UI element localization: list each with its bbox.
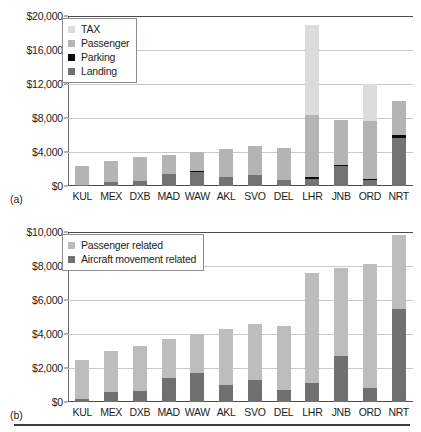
legend-b: Passenger relatedAircraft movement relat… (62, 234, 204, 271)
x-axis-label-mad: MAD (154, 406, 183, 418)
stacked-bar-lhr (305, 25, 319, 186)
x-axis-label-dxb: DXB (126, 406, 155, 418)
bar-segment-tax (363, 84, 377, 121)
y-axis-tick-label: $8,000 (32, 112, 63, 124)
legend-item-passenger: Passenger (68, 36, 129, 50)
bar-segment-passenger (363, 121, 377, 180)
bar-segment-passenger (277, 148, 291, 180)
bar-segment-aircraft-movement-related (219, 385, 233, 402)
legend-a: TAXPassengerParkingLanding (62, 18, 137, 83)
bar-segment-aircraft-movement-related (190, 373, 204, 402)
y-axis-tick-label: $0 (52, 396, 63, 408)
bar-segment-passenger-related (334, 268, 348, 356)
chart-panel-a: $0$4,000$8,000$12,000$16,000$20,000 KULM… (0, 0, 421, 216)
bar-segment-landing (75, 185, 89, 186)
bar-segment-landing (219, 177, 233, 186)
legend-swatch-icon (68, 54, 75, 61)
y-axis-tick-label: $4,000 (32, 328, 63, 340)
bar-slot-lhr (298, 16, 327, 186)
legend-item-tax: TAX (68, 22, 129, 36)
stacked-bar-svo (248, 324, 262, 402)
bar-slot-akl (212, 232, 241, 402)
bar-segment-tax (305, 25, 319, 115)
legend-swatch-icon (68, 242, 75, 249)
bar-slot-jnb (327, 232, 356, 402)
bar-segment-passenger (133, 157, 147, 181)
stacked-bar-ord (363, 84, 377, 186)
bar-segment-landing (162, 174, 176, 186)
stacked-bar-nrt (392, 101, 406, 186)
x-axis-label-mex: MEX (97, 406, 126, 418)
bar-segment-passenger (219, 149, 233, 176)
stacked-bar-waw (190, 152, 204, 186)
legend-item-passenger-related: Passenger related (68, 238, 196, 252)
stacked-bar-mad (162, 339, 176, 402)
bar-segment-aircraft-movement-related (133, 391, 147, 402)
bar-segment-passenger (190, 152, 204, 171)
bar-segment-passenger-related (305, 273, 319, 384)
figure-bottom-rule (14, 424, 410, 426)
bar-segment-passenger-related (190, 334, 204, 373)
bar-segment-passenger-related (248, 324, 262, 380)
bar-slot-nrt (384, 16, 413, 186)
bar-segment-landing (133, 181, 147, 186)
bar-segment-landing (363, 180, 377, 186)
x-axis-label-mad: MAD (154, 190, 183, 202)
stacked-bar-svo (248, 146, 262, 186)
bar-segment-aircraft-movement-related (104, 392, 118, 402)
stacked-bar-mex (104, 161, 118, 186)
y-axis-tick-label: $6,000 (32, 294, 63, 306)
bar-segment-aircraft-movement-related (334, 356, 348, 402)
bar-segment-passenger (104, 161, 118, 182)
x-axis-label-ord: ORD (356, 190, 385, 202)
bar-segment-aircraft-movement-related (75, 399, 89, 402)
bar-segment-passenger-related (104, 351, 118, 392)
y-axis-tick-label: $20,000 (26, 10, 63, 22)
legend-item-parking: Parking (68, 50, 129, 64)
stacked-bar-jnb (334, 120, 348, 186)
bar-segment-aircraft-movement-related (162, 378, 176, 402)
bar-segment-passenger-related (162, 339, 176, 378)
legend-item-aircraft-movement-related: Aircraft movement related (68, 252, 196, 266)
bar-slot-waw (183, 16, 212, 186)
bar-segment-landing (248, 175, 262, 186)
figure-container: $0$4,000$8,000$12,000$16,000$20,000 KULM… (0, 0, 421, 432)
stacked-bar-dxb (133, 157, 147, 186)
bar-segment-aircraft-movement-related (277, 390, 291, 402)
x-axis-label-akl: AKL (212, 190, 241, 202)
y-axis-tick-label: $16,000 (26, 44, 63, 56)
x-axis-labels-b: KULMEXDXBMADWAWAKLSVODELLHRJNBORDNRT (68, 406, 413, 418)
bar-slot-ord (356, 232, 385, 402)
bar-slot-akl (212, 16, 241, 186)
legend-swatch-icon (68, 68, 75, 75)
bar-segment-landing (392, 138, 406, 186)
panel-letter-a: (a) (10, 193, 23, 205)
stacked-bar-nrt (392, 235, 406, 402)
x-axis-labels-a: KULMEXDXBMADWAWAKLSVODELLHRJNBORDNRT (68, 190, 413, 202)
bar-slot-ord (356, 16, 385, 186)
bar-segment-passenger (75, 166, 89, 185)
legend-label: Landing (81, 65, 117, 77)
bar-segment-passenger-related (277, 326, 291, 391)
stacked-bar-mad (162, 155, 176, 186)
bar-segment-passenger-related (392, 235, 406, 308)
x-axis-label-jnb: JNB (327, 406, 356, 418)
bar-segment-aircraft-movement-related (248, 380, 262, 402)
bar-segment-aircraft-movement-related (392, 309, 406, 403)
x-axis-label-mex: MEX (97, 190, 126, 202)
bar-segment-aircraft-movement-related (305, 383, 319, 402)
bar-slot-nrt (384, 232, 413, 402)
x-axis-label-jnb: JNB (327, 190, 356, 202)
bar-segment-landing (305, 179, 319, 186)
bar-slot-lhr (298, 232, 327, 402)
legend-label: Passenger related (81, 239, 163, 251)
bar-segment-passenger (248, 146, 262, 175)
bar-segment-passenger (305, 115, 319, 177)
legend-label: Aircraft movement related (81, 253, 196, 265)
x-axis-label-svo: SVO (241, 406, 270, 418)
x-axis-label-kul: KUL (68, 406, 97, 418)
stacked-bar-del (277, 326, 291, 402)
bar-segment-passenger (392, 101, 406, 135)
bar-segment-passenger-related (133, 346, 147, 392)
x-axis-label-del: DEL (269, 190, 298, 202)
